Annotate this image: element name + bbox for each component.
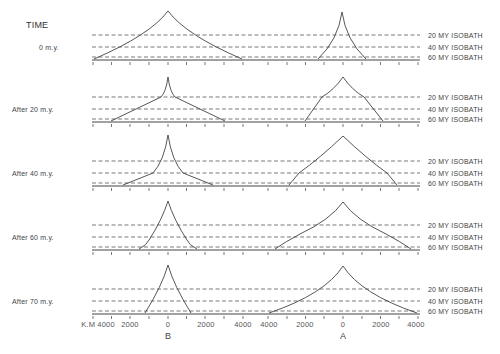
panel-20my: [92, 77, 420, 127]
ridge-a-profile: [305, 77, 383, 121]
panel-0my: [92, 11, 420, 65]
ridge-a-profile: [289, 136, 397, 185]
ridge-b-profile: [94, 11, 242, 59]
ridge-a-profile: [318, 12, 366, 59]
ridge-a-profile: [275, 202, 411, 249]
ridge-b-profile: [123, 135, 213, 185]
isobath-diagram: [0, 0, 500, 354]
ridge-a-profile: [269, 266, 417, 313]
panel-40my: [92, 135, 420, 191]
panel-70my: [92, 265, 420, 319]
panel-60my: [92, 201, 420, 255]
ridge-b-profile: [111, 77, 225, 121]
